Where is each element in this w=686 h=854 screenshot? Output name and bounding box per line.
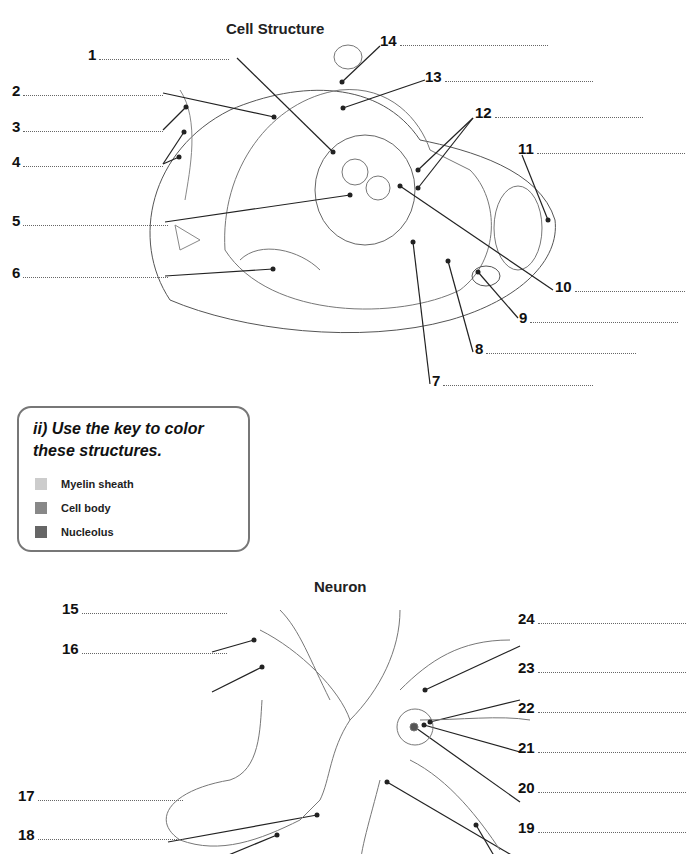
answer-blank[interactable] xyxy=(538,622,686,624)
label-7-answer-field[interactable]: 7 xyxy=(432,372,593,389)
cell-membrane xyxy=(150,90,555,332)
label-number: 20 xyxy=(518,779,535,796)
label-number: 3 xyxy=(12,118,20,135)
label-number: 10 xyxy=(555,278,572,295)
label-8-answer-field[interactable]: 8 xyxy=(475,340,636,357)
answer-blank[interactable] xyxy=(443,384,593,386)
label-12-answer-field[interactable]: 12 xyxy=(475,104,643,121)
answer-blank[interactable] xyxy=(23,94,163,96)
answer-blank[interactable] xyxy=(82,652,227,654)
label-1-answer-field[interactable]: 1 xyxy=(88,46,229,63)
label-2-answer-field[interactable]: 2 xyxy=(12,82,163,99)
answer-blank[interactable] xyxy=(495,116,643,118)
label-16-answer-field[interactable]: 16 xyxy=(62,640,227,657)
label-number: 15 xyxy=(62,600,79,617)
label-number: 24 xyxy=(518,610,535,627)
label-number: 1 xyxy=(88,46,96,63)
label-9-answer-field[interactable]: 9 xyxy=(519,309,678,326)
answer-blank[interactable] xyxy=(575,290,685,292)
key-item-nucleolus: Nucleolus xyxy=(35,526,114,538)
label-10-answer-field[interactable]: 10 xyxy=(555,278,685,295)
label-20-answer-field[interactable]: 20 xyxy=(518,779,686,796)
label-number: 11 xyxy=(518,140,534,157)
label-number: 4 xyxy=(12,153,20,170)
label-22-answer-field[interactable]: 22 xyxy=(518,699,686,716)
label-number: 12 xyxy=(475,104,492,121)
answer-blank[interactable] xyxy=(82,612,227,614)
label-number: 5 xyxy=(12,212,20,229)
answer-blank[interactable] xyxy=(538,671,686,673)
key-item-myelin-sheath: Myelin sheath xyxy=(35,478,134,490)
label-18-answer-field[interactable]: 18 xyxy=(18,826,183,843)
label-number: 22 xyxy=(518,699,535,716)
key-item-cell-body: Cell body xyxy=(35,502,111,514)
label-number: 21 xyxy=(518,739,535,756)
label-number: 6 xyxy=(12,264,20,281)
label-number: 19 xyxy=(518,819,535,836)
answer-blank[interactable] xyxy=(38,799,183,801)
label-number: 13 xyxy=(425,68,442,85)
swatch-myelin-sheath xyxy=(35,478,47,490)
label-21-answer-field[interactable]: 21 xyxy=(518,739,686,756)
label-number: 23 xyxy=(518,659,535,676)
label-15-answer-field[interactable]: 15 xyxy=(62,600,227,617)
answer-blank[interactable] xyxy=(23,276,168,278)
label-5-answer-field[interactable]: 5 xyxy=(12,212,168,229)
label-number: 18 xyxy=(18,826,35,843)
label-4-answer-field[interactable]: 4 xyxy=(12,153,163,170)
answer-blank[interactable] xyxy=(38,838,183,840)
key-heading: ii) Use the key to color these structure… xyxy=(33,418,243,462)
answer-blank[interactable] xyxy=(99,58,229,60)
answer-blank[interactable] xyxy=(530,321,678,323)
label-number: 2 xyxy=(12,82,20,99)
swatch-nucleolus xyxy=(35,526,47,538)
answer-blank[interactable] xyxy=(23,165,163,167)
label-23-answer-field[interactable]: 23 xyxy=(518,659,686,676)
label-number: 7 xyxy=(432,372,440,389)
label-6-answer-field[interactable]: 6 xyxy=(12,264,168,281)
answer-blank[interactable] xyxy=(445,80,593,82)
swatch-cell-body xyxy=(35,502,47,514)
answer-blank[interactable] xyxy=(486,352,636,354)
label-19-answer-field[interactable]: 19 xyxy=(518,819,686,836)
answer-blank[interactable] xyxy=(400,44,548,46)
label-24-answer-field[interactable]: 24 xyxy=(518,610,686,627)
label-number: 14 xyxy=(380,32,397,49)
answer-blank[interactable] xyxy=(23,130,163,132)
answer-blank[interactable] xyxy=(23,224,168,226)
answer-blank[interactable] xyxy=(538,791,686,793)
label-3-answer-field[interactable]: 3 xyxy=(12,118,163,135)
answer-blank[interactable] xyxy=(538,751,686,753)
label-number: 8 xyxy=(475,340,483,357)
label-14-answer-field[interactable]: 14 xyxy=(380,32,548,49)
answer-blank[interactable] xyxy=(538,831,686,833)
answer-blank[interactable] xyxy=(537,152,685,154)
color-key-box: ii) Use the key to color these structure… xyxy=(17,406,250,552)
label-13-answer-field[interactable]: 13 xyxy=(425,68,593,85)
label-17-answer-field[interactable]: 17 xyxy=(18,787,183,804)
answer-blank[interactable] xyxy=(538,711,686,713)
label-number: 16 xyxy=(62,640,79,657)
label-number: 9 xyxy=(519,309,527,326)
label-number: 17 xyxy=(18,787,35,804)
label-11-answer-field[interactable]: 11 xyxy=(518,140,685,157)
